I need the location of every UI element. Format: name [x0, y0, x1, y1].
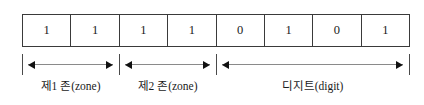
segment-tick-zone1-zone2	[119, 54, 120, 75]
arrow-left-icon	[28, 61, 35, 69]
bit-cell: 1	[362, 15, 409, 46]
segment-label-zone2: 제2 존(zone)	[119, 80, 216, 94]
bit-cell: 0	[217, 15, 265, 46]
segment-tick-zone2-digit	[216, 54, 217, 75]
span-arrow-zone2	[125, 64, 210, 65]
arrow-right-icon	[203, 61, 210, 69]
span-arrow-digit	[222, 64, 403, 65]
segment-tick-end	[409, 54, 410, 75]
bit-cell: 1	[23, 15, 71, 46]
arrow-right-icon	[396, 61, 403, 69]
arrow-left-icon	[222, 61, 229, 69]
segment-label-zone1: 제1 존(zone)	[22, 80, 119, 94]
bit-cell: 1	[168, 15, 216, 46]
bit-cell: 1	[71, 15, 119, 46]
arrow-right-icon	[106, 61, 113, 69]
arrow-left-icon	[125, 61, 132, 69]
bit-cell: 0	[313, 15, 361, 46]
bit-field-diagram: 1 1 1 1 0 1 0 1 제1 존(zone) 제2 존(zone) 디지…	[0, 0, 424, 105]
span-arrow-zone1	[28, 64, 113, 65]
segment-label-digit: 디지트(digit)	[216, 80, 409, 94]
segment-tick-start	[22, 54, 23, 75]
bit-cell-table: 1 1 1 1 0 1 0 1	[22, 14, 410, 47]
bit-cell: 1	[265, 15, 313, 46]
bit-cell: 1	[120, 15, 168, 46]
